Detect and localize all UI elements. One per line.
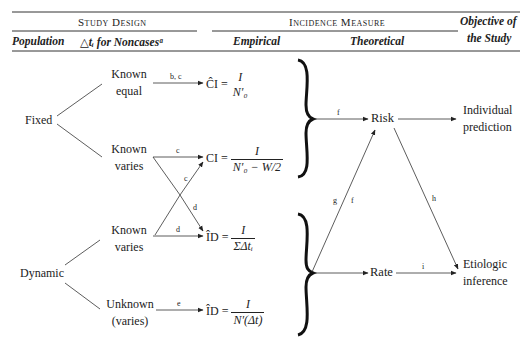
arrow-label-c-cross: c	[184, 174, 188, 183]
objective-line1: Individual	[463, 102, 512, 119]
fraction: I N′(Δt)	[231, 297, 264, 328]
header-study-design: Study Design	[78, 16, 147, 28]
denominator: N′₀	[231, 85, 250, 100]
arrow-label-i: i	[422, 262, 424, 271]
formula-id-hat-avg: ÎD = I N′(Δt)	[206, 297, 264, 328]
population-fixed: Fixed	[25, 112, 52, 129]
numerator: I	[231, 223, 254, 238]
fraction: I N′₀ − W/2	[231, 144, 283, 175]
branch-line2: varies	[107, 239, 151, 256]
fraction: I N′₀	[231, 70, 250, 100]
denominator: N′(Δt)	[231, 312, 264, 328]
measure-risk: Risk	[371, 110, 394, 127]
branch-known-varies-fixed: Known varies	[107, 141, 151, 175]
population-dynamic: Dynamic	[20, 265, 64, 282]
formula-ci-hat: ĈI = I N′₀	[206, 70, 250, 100]
arrow-label-c: c	[176, 146, 180, 155]
numerator: I	[231, 297, 264, 312]
formula-lhs: ĈI =	[206, 77, 228, 91]
arrow-label-d: d	[176, 225, 180, 234]
formula-lhs: ÎD =	[206, 304, 228, 318]
objective-line1: Etiologic	[463, 256, 508, 273]
formula-lhs: CI =	[206, 151, 228, 165]
arrow-label-f-top: f	[337, 108, 340, 117]
measure-rate: Rate	[370, 264, 393, 281]
fraction: I ΣΔtᵢ	[231, 223, 254, 254]
header-incidence-measure: Incidence Measure	[289, 16, 385, 28]
branch-known-equal: Known equal	[107, 66, 151, 100]
arrow-label-f-diag: f	[351, 196, 354, 205]
branch-line2: equal	[107, 83, 151, 100]
branch-known-varies-dynamic: Known varies	[107, 222, 151, 256]
formula-id-hat-sum: ÎD = I ΣΔtᵢ	[206, 223, 255, 254]
arrow-label-d-cross: d	[193, 203, 197, 212]
arrow-label-e: e	[177, 299, 181, 308]
header-delta-t: △tᵢ for Noncasesᵃ	[80, 35, 163, 49]
header-objective-line1: Objective of	[460, 15, 517, 27]
branch-line1: Known	[107, 66, 151, 83]
denominator: N′₀ − W/2	[231, 159, 283, 175]
objective-line2: prediction	[463, 119, 512, 136]
objective-individual-prediction: Individual prediction	[463, 102, 512, 136]
header-theoretical: Theoretical	[350, 35, 404, 47]
branch-line1: Known	[107, 222, 151, 239]
formula-ci: CI = I N′₀ − W/2	[206, 144, 283, 175]
formula-lhs: ÎD =	[206, 230, 228, 244]
header-objective-line2: the Study	[467, 32, 511, 44]
branch-line2: varies	[107, 158, 151, 175]
header-population: Population	[12, 35, 64, 47]
arrow-label-bc: b, c	[170, 72, 182, 81]
numerator: I	[231, 144, 283, 159]
arrow-label-h: h	[432, 194, 436, 203]
objective-etiologic-inference: Etiologic inference	[463, 256, 508, 290]
arrow-label-g: g	[333, 196, 337, 205]
objective-line2: inference	[463, 273, 508, 290]
branch-unknown-varies: Unknown (varies)	[104, 296, 156, 330]
header-empirical: Empirical	[233, 35, 280, 47]
branch-line1: Unknown	[104, 296, 156, 313]
branch-line1: Known	[107, 141, 151, 158]
denominator: ΣΔtᵢ	[231, 238, 254, 254]
numerator: I	[231, 70, 250, 85]
branch-line2: (varies)	[104, 313, 156, 330]
